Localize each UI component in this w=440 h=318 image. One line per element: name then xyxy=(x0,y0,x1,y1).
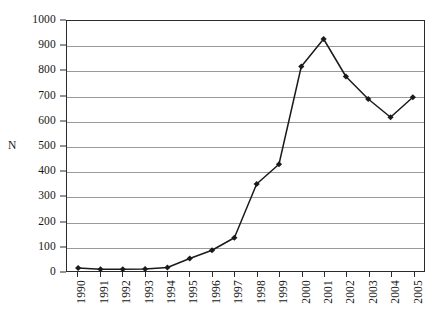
x-tick-label: 2001 xyxy=(323,280,335,304)
x-tick-label: 1994 xyxy=(166,280,178,304)
x-tick-mark xyxy=(279,272,280,277)
x-tick-label: 2002 xyxy=(346,280,358,304)
y-tick-label: 400 xyxy=(38,165,56,177)
x-tick-mark xyxy=(391,272,392,277)
y-tick-label: 200 xyxy=(38,216,56,228)
data-series-line xyxy=(67,21,424,271)
y-tick-label: 1000 xyxy=(32,14,56,26)
x-tick-label: 1992 xyxy=(121,280,133,304)
x-tick-label: 1993 xyxy=(144,280,156,304)
x-tick-label: 2005 xyxy=(413,280,425,304)
y-tick-label: 700 xyxy=(38,90,56,102)
x-tick-label: 1991 xyxy=(99,280,111,304)
y-tick-label: 300 xyxy=(38,191,56,203)
y-tick-label: 600 xyxy=(38,115,56,127)
x-tick-label: 1997 xyxy=(234,280,246,304)
x-tick-label: 1999 xyxy=(278,280,290,304)
y-tick-label: 0 xyxy=(50,266,56,278)
data-point-marker xyxy=(209,247,215,253)
y-tick-label: 500 xyxy=(38,140,56,152)
x-tick-label: 1990 xyxy=(76,280,88,304)
series-line xyxy=(78,39,413,269)
x-tick-label: 2000 xyxy=(301,280,313,304)
x-tick-mark xyxy=(257,272,258,277)
x-tick-mark xyxy=(100,272,101,277)
x-tick-label: 1996 xyxy=(211,280,223,304)
line-chart: N 01002003004005006007008009001000 19901… xyxy=(0,0,440,318)
x-tick-mark xyxy=(189,272,190,277)
x-tick-mark xyxy=(145,272,146,277)
data-point-marker xyxy=(75,265,81,271)
y-tick-label: 900 xyxy=(38,39,56,51)
x-axis: 1990199119921993199419951996199719981999… xyxy=(66,272,425,318)
x-tick-mark xyxy=(77,272,78,277)
x-tick-mark xyxy=(346,272,347,277)
x-tick-mark xyxy=(324,272,325,277)
x-tick-mark xyxy=(369,272,370,277)
y-tick-label: 100 xyxy=(38,241,56,253)
x-tick-label: 1995 xyxy=(189,280,201,304)
x-tick-label: 2004 xyxy=(391,280,403,304)
x-tick-label: 1998 xyxy=(256,280,268,304)
data-point-marker xyxy=(164,264,170,270)
y-axis: 01002003004005006007008009001000 xyxy=(0,0,66,292)
x-tick-mark xyxy=(212,272,213,277)
plot-area xyxy=(66,20,425,272)
x-tick-mark xyxy=(122,272,123,277)
x-tick-mark xyxy=(302,272,303,277)
x-tick-mark xyxy=(167,272,168,277)
data-point-marker xyxy=(231,235,237,241)
x-tick-mark xyxy=(414,272,415,277)
y-tick-label: 800 xyxy=(38,65,56,77)
x-tick-mark xyxy=(234,272,235,277)
data-point-marker xyxy=(187,255,193,261)
x-tick-label: 2003 xyxy=(368,280,380,304)
